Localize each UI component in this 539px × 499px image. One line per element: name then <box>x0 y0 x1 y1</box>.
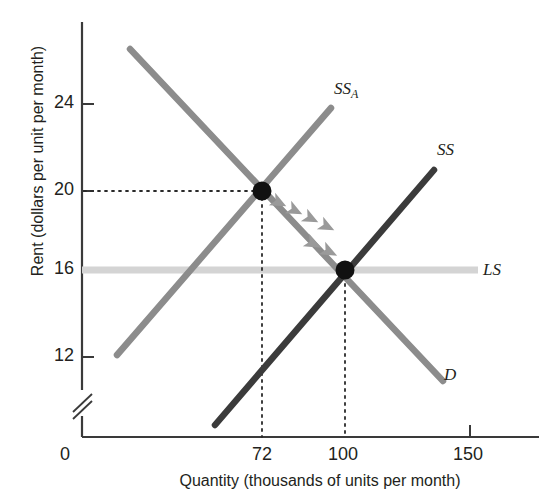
y-tick-label-12: 12 <box>54 345 74 366</box>
curve-label-ss: SS <box>437 140 454 160</box>
curve-label-ss-a: SSA <box>334 79 358 102</box>
x-axis-title: Quantity (thousands of units per month) <box>150 472 490 490</box>
y-tick-label-24: 24 <box>54 92 74 113</box>
y-tick-label-0: 0 <box>60 444 70 465</box>
adjustment-arrow-chain <box>269 193 341 262</box>
x-tick-label-100: 100 <box>328 444 358 465</box>
curve-label-ss-a-sub: A <box>351 87 358 101</box>
curve-label-ss-a-main: SS <box>334 79 351 98</box>
y-tick-label-16: 16 <box>54 258 74 279</box>
y-axis-title: Rent (dollars per unit per month) <box>29 31 47 291</box>
curve-label-d: D <box>444 365 456 385</box>
equilibrium-marker-100-16 <box>336 261 355 280</box>
y-axis-break-icon <box>73 390 92 419</box>
x-tick-label-72: 72 <box>252 444 272 465</box>
equilibrium-marker-72-20 <box>253 182 272 201</box>
supply-demand-chart: 0 12 16 20 24 72 100 150 SSA SS LS D Ren… <box>0 0 539 499</box>
chart-plot-area <box>0 0 539 499</box>
x-tick-label-150: 150 <box>453 444 483 465</box>
curve-label-ls: LS <box>483 260 501 280</box>
y-tick-label-20: 20 <box>54 179 74 200</box>
